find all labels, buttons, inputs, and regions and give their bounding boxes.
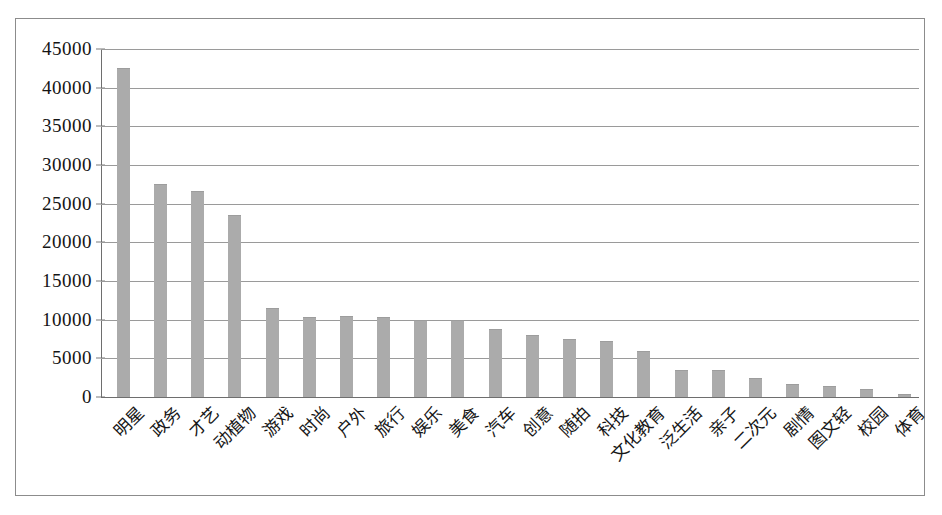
y-axis-tick-label: 25000 xyxy=(42,193,92,215)
bar xyxy=(117,68,130,397)
y-axis-line xyxy=(101,49,102,397)
y-axis-tick-label: 20000 xyxy=(42,231,92,253)
bar xyxy=(228,215,241,398)
bar xyxy=(191,191,204,397)
y-axis-tick-labels: 0500010000150002000025000300003500040000… xyxy=(16,49,92,397)
gridline xyxy=(101,49,919,50)
x-axis-tick-label: 明星 xyxy=(107,400,149,442)
gridline xyxy=(101,320,919,321)
y-axis-tick-label: 30000 xyxy=(42,154,92,176)
bar xyxy=(154,184,167,397)
gridline xyxy=(101,358,919,359)
gridline xyxy=(101,88,919,89)
y-axis-tick-label: 10000 xyxy=(42,309,92,331)
gridline xyxy=(101,242,919,243)
y-axis-tick-label: 35000 xyxy=(42,115,92,137)
chart-frame: 0500010000150002000025000300003500040000… xyxy=(15,18,925,496)
y-axis-tick-label: 15000 xyxy=(42,270,92,292)
y-axis-tick-label: 5000 xyxy=(52,347,92,369)
y-axis-tick-label: 40000 xyxy=(42,77,92,99)
gridline xyxy=(101,126,919,127)
y-axis-tick-label: 0 xyxy=(82,386,92,408)
x-axis-tick-labels: 明星政务才艺动植物游戏时尚户外旅行娱乐美食汽车创意随拍科技文化教育泛生活亲子二次… xyxy=(101,397,919,493)
y-axis-tick-label: 45000 xyxy=(42,38,92,60)
plot-area xyxy=(101,49,919,397)
gridline xyxy=(101,165,919,166)
gridline xyxy=(101,204,919,205)
gridline xyxy=(101,281,919,282)
